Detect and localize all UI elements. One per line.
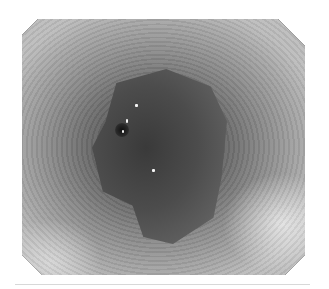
light-reflection (152, 169, 155, 172)
light-reflection (122, 130, 124, 133)
endoscopy-image (22, 19, 305, 275)
bottom-divider (15, 284, 310, 285)
light-reflection (126, 119, 128, 123)
light-reflection (135, 104, 138, 107)
